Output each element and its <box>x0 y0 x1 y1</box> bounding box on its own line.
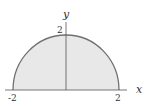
semicircle-diagram: y 2 x -2 2 <box>0 0 147 106</box>
x-axis-label: x <box>136 83 143 96</box>
x-max-tick-label: 2 <box>115 93 121 103</box>
y-axis-label: y <box>62 8 70 21</box>
y-max-tick-label: 2 <box>57 25 63 35</box>
x-min-tick-label: -2 <box>8 93 17 103</box>
